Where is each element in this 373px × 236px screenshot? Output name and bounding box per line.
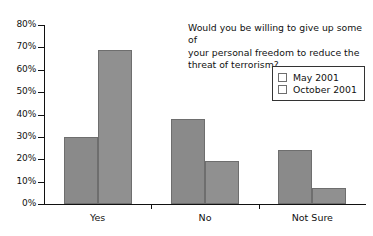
legend-label-may-2001: May 2001	[293, 72, 339, 83]
y-axis-line	[44, 25, 45, 205]
bar	[205, 161, 239, 204]
x-axis-category-label: No	[155, 212, 255, 223]
legend-item-october-2001: October 2001	[278, 84, 357, 95]
legend-swatch-may-2001	[278, 73, 287, 82]
y-axis-tick-label: 60%	[0, 65, 36, 74]
legend-item-may-2001: May 2001	[278, 72, 357, 83]
x-axis-tick	[151, 204, 152, 209]
y-axis-tick-label: 80%	[0, 20, 36, 29]
y-axis-tick	[38, 92, 44, 93]
y-axis-tick-label: 20%	[0, 154, 36, 163]
y-axis-tick-label: 50%	[0, 87, 36, 96]
question-line-2: your personal freedom to reduce the	[188, 47, 368, 59]
x-axis-line	[44, 204, 366, 205]
chart-question-title: Would you be willing to give up some of …	[188, 22, 368, 72]
y-axis-tick	[38, 25, 44, 26]
bar	[64, 137, 98, 204]
y-axis-tick	[38, 182, 44, 183]
y-axis-tick	[38, 159, 44, 160]
bar	[278, 150, 312, 204]
x-axis-category-label: Not Sure	[262, 212, 362, 223]
x-axis-tick	[259, 204, 260, 209]
bar	[98, 50, 132, 204]
y-axis-tick	[38, 115, 44, 116]
x-axis-category-label: Yes	[48, 212, 148, 223]
y-axis-tick	[38, 137, 44, 138]
y-axis-tick-label: 0%	[0, 199, 36, 208]
bar	[171, 119, 205, 204]
y-axis-tick-label: 40%	[0, 110, 36, 119]
y-axis-tick	[38, 47, 44, 48]
question-line-1: Would you be willing to give up some of	[188, 22, 368, 47]
y-axis-tick-label: 30%	[0, 132, 36, 141]
legend-swatch-october-2001	[278, 85, 287, 94]
y-axis-tick	[38, 70, 44, 71]
chart-legend: May 2001 October 2001	[272, 66, 365, 101]
bar	[312, 188, 346, 204]
legend-label-october-2001: October 2001	[293, 84, 357, 95]
bar-chart: Would you be willing to give up some of …	[0, 0, 373, 236]
y-axis-tick	[38, 204, 44, 205]
y-axis-tick-label: 70%	[0, 42, 36, 51]
y-axis-tick-label: 10%	[0, 177, 36, 186]
